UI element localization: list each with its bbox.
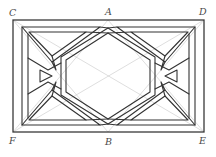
connector-inner-bottom-left: [86, 119, 108, 120]
right-knot-eye: [165, 70, 177, 82]
knot-diagram-svg: [0, 0, 216, 157]
vertex-label-b: B: [105, 137, 112, 147]
connector-top-right-to-apex: [108, 27, 117, 28]
construction-lines-group: [13, 20, 204, 132]
connector-inner-top-right: [108, 32, 131, 33]
connector-inner-bottom-right: [108, 119, 131, 120]
knot-diagram-figure: C A D F B E: [0, 0, 216, 157]
central-hexagon-outer: [61, 28, 155, 124]
vertex-label-e: E: [199, 136, 206, 146]
vertex-label-a: A: [105, 7, 112, 17]
right-knot-lower-link: [155, 82, 189, 94]
vertex-label-c: C: [9, 8, 16, 18]
connector-bottom-right-to-apex: [108, 124, 117, 125]
vertex-label-d: D: [199, 7, 207, 17]
vertex-label-f: F: [9, 136, 16, 146]
right-knot-upper-link: [155, 58, 189, 70]
left-knot-eye: [40, 70, 52, 82]
connector-inner-top-left: [86, 32, 108, 33]
